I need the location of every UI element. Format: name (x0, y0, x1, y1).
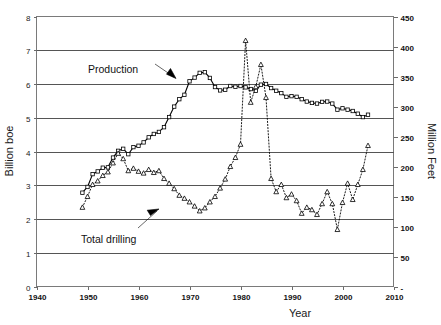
production-annotation-label: Production (88, 63, 138, 75)
total-drilling-point (213, 194, 218, 198)
total-drilling-point (248, 100, 253, 104)
x-tick-label: 1950 (80, 293, 98, 302)
production-point (178, 97, 181, 100)
total-drilling-point (131, 166, 136, 170)
production-point (244, 86, 247, 89)
production-point (269, 86, 272, 89)
series-production (81, 70, 370, 194)
production-point (315, 102, 318, 105)
y2-tick-label: 400 (401, 44, 415, 53)
production-point (361, 115, 364, 118)
y-tick-label: 4 (26, 149, 31, 158)
total-drilling-point (218, 186, 223, 190)
production-point (193, 76, 196, 79)
x-axis-ticks: 19401950196019701980199020002010 (29, 287, 404, 302)
x-axis-title: Year (289, 307, 312, 319)
total-drilling-point (95, 179, 100, 183)
x-tick-label: 2000 (335, 293, 353, 302)
x-tick-label: 2010 (386, 293, 404, 302)
production-point (366, 113, 369, 116)
production-point (203, 70, 206, 73)
total-drilling-point (90, 182, 95, 186)
total-drilling-point (279, 182, 284, 186)
y-tick-label: 5 (26, 115, 31, 124)
plot-border (37, 17, 394, 287)
gridlines (37, 51, 394, 254)
total-drilling-annotation-arrow-icon (138, 209, 159, 228)
production-point (86, 185, 89, 188)
total-drilling-point (177, 193, 182, 197)
production-annotation-arrow-icon (155, 64, 176, 79)
y-tick-label: 3 (26, 182, 31, 191)
production-point (96, 170, 99, 173)
y2-tick-label: 450 (401, 14, 415, 23)
y-tick-label: 7 (26, 47, 31, 56)
production-point (280, 91, 283, 94)
y-tick-label: 0 (26, 284, 31, 293)
x-tick-label: 1980 (233, 293, 251, 302)
production-point (106, 166, 109, 169)
production-point (290, 94, 293, 97)
production-point (208, 76, 211, 79)
total-drilling-point (223, 177, 228, 181)
x-tick-label: 1970 (182, 293, 200, 302)
production-point (101, 166, 104, 169)
production-point (305, 100, 308, 103)
production-point (259, 83, 262, 86)
total-drilling-point (243, 38, 248, 42)
total-drilling-point (335, 227, 340, 231)
total-drilling-point (233, 155, 238, 159)
total-drilling-point (238, 142, 243, 146)
annotation-total-drilling: Total drilling (81, 209, 159, 245)
total-drilling-point (350, 197, 355, 201)
chart-figure: 012345678 -50100150200250300350400450 19… (0, 0, 441, 325)
total-drilling-point (330, 201, 335, 205)
y-axis-title: Billion boe (3, 126, 15, 177)
total-drilling-point (182, 196, 187, 200)
y2-tick-label: 150 (401, 194, 415, 203)
total-drilling-point (146, 167, 151, 171)
y2-tick-label: 200 (401, 164, 415, 173)
total-drilling-point (264, 95, 269, 99)
total-drilling-point (274, 189, 279, 193)
production-point (300, 97, 303, 100)
total-drilling-point (151, 170, 156, 174)
y-tick-label: 6 (26, 81, 31, 90)
production-point (346, 108, 349, 111)
x-tick-label: 1990 (284, 293, 302, 302)
production-point (295, 95, 298, 98)
total-drilling-point (80, 205, 85, 209)
annotation-production: Production (88, 63, 176, 79)
total-drilling-point (228, 164, 233, 168)
total-drilling-point (269, 176, 274, 180)
production-point (239, 84, 242, 87)
production-point (167, 115, 170, 118)
production-point (356, 112, 359, 115)
production-point (320, 100, 323, 103)
production-point (183, 93, 186, 96)
total-drilling-point (187, 200, 192, 204)
production-point (310, 101, 313, 104)
y2-tick-label: 350 (401, 74, 415, 83)
total-drilling-point (304, 205, 309, 209)
y-tick-label: 2 (26, 216, 31, 225)
production-point (229, 84, 232, 87)
total-drilling-point (366, 143, 371, 147)
total-drilling-annotation-label: Total drilling (81, 233, 137, 245)
total-drilling-point (361, 167, 366, 171)
production-point (213, 85, 216, 88)
total-drilling-point (192, 204, 197, 208)
production-point (152, 132, 155, 135)
production-point (162, 126, 165, 129)
production-markers (81, 70, 370, 194)
y2-tick-label: 250 (401, 134, 415, 143)
total-drilling-point (85, 194, 90, 198)
production-point (341, 107, 344, 110)
total-drilling-point (157, 168, 162, 172)
x-tick-label: 1940 (29, 293, 47, 302)
total-drilling-point (310, 207, 315, 211)
total-drilling-point (259, 62, 264, 66)
production-point (285, 95, 288, 98)
production-point (351, 109, 354, 112)
production-point (137, 144, 140, 147)
